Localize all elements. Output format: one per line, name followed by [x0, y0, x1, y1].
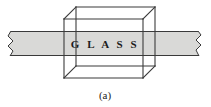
cube-edge-depth-bottom-right — [143, 66, 155, 78]
glass-material-label: G L A S S — [71, 38, 140, 50]
figure-container: G L A S S (a) — [0, 0, 211, 107]
cube-edge-depth-top-left — [64, 7, 76, 19]
cube-edge-depth-bottom-left — [64, 66, 76, 78]
cube-edge-depth-top-right — [143, 7, 155, 19]
figure-caption: (a) — [99, 89, 112, 102]
glass-block-diagram: G L A S S (a) — [0, 0, 211, 107]
